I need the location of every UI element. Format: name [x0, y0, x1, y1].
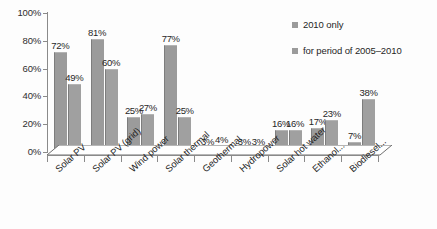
x-axis-tick	[268, 155, 269, 162]
x-axis-tick	[304, 155, 305, 162]
bar-value-label: 27%	[135, 102, 160, 113]
y-axis-tick-label: 100%	[1, 7, 41, 18]
legend-item-label: 2010 only	[303, 19, 343, 30]
y-axis-tick-label: 40%	[1, 90, 41, 101]
bar-value-label: 72%	[48, 40, 73, 51]
x-axis-tick	[84, 155, 85, 162]
y-axis-tick-label: 60%	[1, 63, 41, 74]
y-axis-tick-label: 20%	[1, 118, 41, 129]
bar-value-label: 77%	[158, 33, 183, 44]
x-axis-tick	[47, 155, 48, 162]
legend-swatch-icon	[292, 22, 298, 28]
bar	[105, 69, 118, 152]
x-axis-tick	[194, 155, 195, 162]
bar	[54, 52, 67, 152]
chart-legend: 2010 only for period of 2005–2010	[292, 19, 402, 71]
bar-chart: 0%20%40%60%80%100% 72%49%81%60%25%27%77%…	[0, 0, 437, 229]
y-axis-tick-label: 0%	[1, 146, 41, 157]
x-axis-tick	[341, 155, 342, 162]
y-axis-tick-label: 80%	[1, 35, 41, 46]
bar-value-label: 60%	[99, 57, 124, 68]
x-axis-tick	[378, 155, 379, 162]
bar-value-label: 16%	[283, 118, 308, 129]
legend-item: 2010 only	[292, 19, 402, 30]
x-axis-tick	[157, 155, 158, 162]
bar-value-label: 23%	[319, 108, 344, 119]
bar-value-label: 38%	[356, 87, 381, 98]
legend-swatch-icon	[292, 48, 298, 54]
bar-value-label: 81%	[85, 27, 110, 38]
bar-value-label: 25%	[172, 105, 197, 116]
bar-value-label: 49%	[62, 72, 87, 83]
legend-item-label: for period of 2005–2010	[303, 45, 402, 56]
legend-item: for period of 2005–2010	[292, 45, 402, 56]
x-axis-tick	[121, 155, 122, 162]
x-axis-tick	[231, 155, 232, 162]
